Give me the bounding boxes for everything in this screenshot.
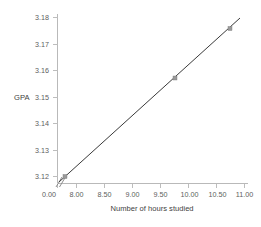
y-tick-label: 3.14 [35, 119, 49, 128]
y-tick-label: 3.16 [35, 66, 49, 75]
x-tick-label: 0.00 [42, 190, 56, 199]
x-tick-label: 8.00 [70, 190, 84, 199]
data-point-marker [63, 175, 67, 179]
x-tick-label: 9.50 [154, 190, 168, 199]
x-axis-title: Number of hours studied [110, 204, 193, 213]
data-point-marker [228, 27, 232, 31]
gpa-vs-hours-chart: 3.18 3.17 3.16 3.15 3.14 3.13 3.12 GPA 0… [0, 0, 261, 227]
y-tick-label: 3.13 [35, 146, 49, 155]
x-tick-label: 10.00 [181, 190, 199, 199]
chart-svg: 3.18 3.17 3.16 3.15 3.14 3.13 3.12 GPA 0… [0, 0, 261, 227]
y-tick-label: 3.18 [35, 13, 49, 22]
x-tick-label: 9.00 [126, 190, 140, 199]
x-tick-label: 8.50 [98, 190, 112, 199]
y-tick-label: 3.17 [35, 40, 49, 49]
y-tick-label: 3.15 [35, 93, 49, 102]
x-tick-label: 11.00 [236, 190, 253, 199]
data-point-marker [173, 76, 177, 80]
x-tick-label: 10.50 [209, 190, 227, 199]
y-tick-label: 3.12 [35, 172, 49, 181]
y-axis-title: GPA [14, 93, 30, 102]
